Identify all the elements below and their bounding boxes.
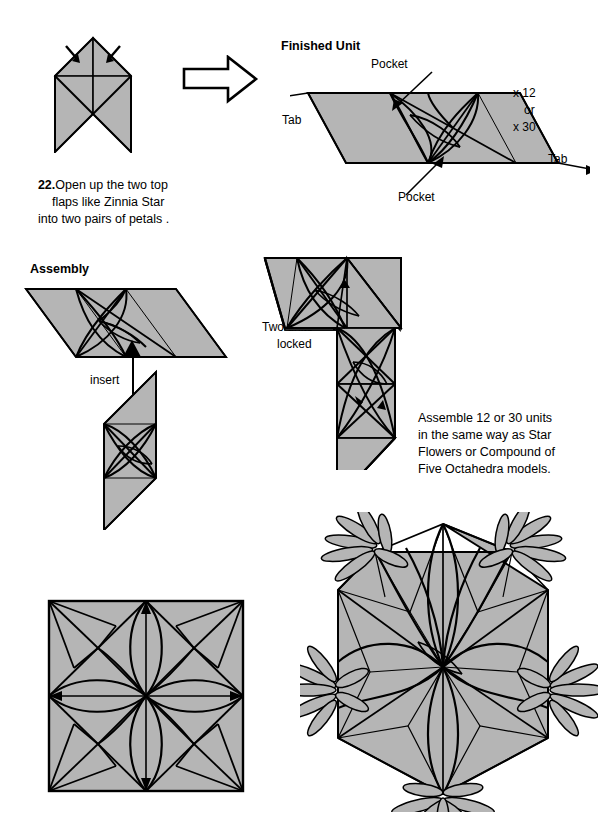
tab-left-label: Tab	[282, 113, 301, 127]
twelve-unit-square-model	[46, 598, 246, 794]
finished-unit-title: Finished Unit	[281, 39, 360, 54]
step22-line3: into two pairs of petals .	[38, 212, 169, 226]
thirty-unit-ball-model	[300, 512, 598, 812]
step22-diagram	[48, 28, 168, 153]
step22-line3-wrap: into two pairs of petals .	[24, 197, 169, 241]
pocket-bottom-label: Pocket	[398, 190, 435, 204]
assembly-note-line4: Five Octahedra models.	[418, 462, 551, 477]
big-arrow-right-icon	[182, 55, 260, 107]
origami-instruction-page: 22.Open up the two top flaps like Zinnia…	[0, 0, 599, 826]
assembly-upper-unit	[14, 285, 239, 365]
tab-right-label: Tab	[548, 152, 567, 166]
flap-arrow-left-icon	[66, 46, 80, 63]
assembly-note-line3: Flowers or Compound of	[418, 445, 555, 460]
unit-count-line2: or	[524, 103, 535, 117]
unit-count-line3: x 30	[513, 120, 536, 134]
tab-left-arrow-icon	[290, 93, 308, 109]
assembly-note-line1: Assemble 12 or 30 units	[418, 411, 552, 426]
pocket-top-pointer-icon	[380, 70, 440, 114]
flap-arrow-right-icon	[106, 46, 120, 63]
assembly-title: Assembly	[30, 262, 89, 277]
pocket-top-label: Pocket	[371, 57, 408, 71]
unit-count-line1: x 12	[513, 86, 536, 100]
assembly-note-line2: in the same way as Star	[418, 428, 551, 443]
assembly-lower-unit	[78, 368, 188, 530]
